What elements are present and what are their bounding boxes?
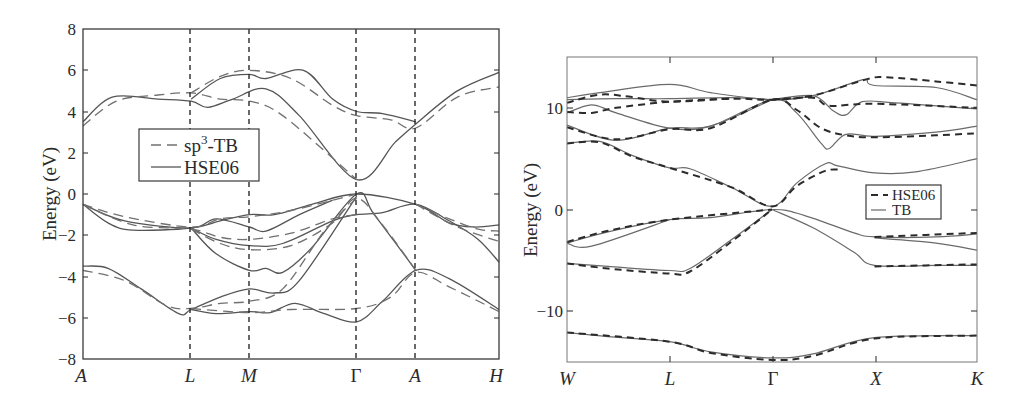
solid-band-line xyxy=(567,210,772,272)
ytick-label: −8 xyxy=(58,350,76,369)
legend-label-tb: TB xyxy=(892,202,911,218)
right-legend: HSE06 TB xyxy=(866,185,941,219)
ytick-label: −10 xyxy=(536,302,563,321)
k-label: A xyxy=(73,365,87,386)
band-structure-figure: 8 6 4 2 0 −2 −4 −6 −8 Energy (eV) A L M … xyxy=(0,0,1019,409)
ytick-label: 0 xyxy=(68,185,77,204)
right-chart: 10 0 −10 Energy (eV) W L Γ X K HSE06 TB xyxy=(520,57,985,389)
solid-band-line xyxy=(191,70,416,122)
legend-label-hse06: HSE06 xyxy=(184,157,239,178)
ytick-label: −6 xyxy=(58,309,76,328)
legend-label-tb: sp3-TB xyxy=(184,132,238,156)
dashed-band-line xyxy=(875,264,978,266)
dashed-band-line xyxy=(567,142,842,207)
k-label: L xyxy=(184,365,196,386)
solid-band-line xyxy=(567,98,772,100)
solid-band-line xyxy=(191,269,499,322)
dashed-band-line xyxy=(191,272,499,312)
left-band-lines xyxy=(83,70,499,323)
k-label: H xyxy=(488,365,504,386)
left-legend: sp3-TB HSE06 xyxy=(139,129,259,181)
ytick-label: 6 xyxy=(68,61,77,80)
left-y-tick-labels: 8 6 4 2 0 −2 −4 −6 −8 xyxy=(58,20,77,369)
ytick-label: 2 xyxy=(68,144,77,163)
ytick-label: 4 xyxy=(68,103,77,122)
dashed-band-line xyxy=(567,210,772,243)
k-label: W xyxy=(559,368,577,389)
k-label: Γ xyxy=(351,365,362,386)
k-label: M xyxy=(240,365,258,386)
left-chart: 8 6 4 2 0 −2 −4 −6 −8 Energy (eV) A L M … xyxy=(39,20,504,386)
solid-band-line xyxy=(567,100,772,130)
k-label: Γ xyxy=(768,368,779,389)
k-label: A xyxy=(407,365,421,386)
k-label: L xyxy=(664,368,676,389)
left-vlines xyxy=(190,29,415,359)
right-y-axis-label: Energy (eV) xyxy=(520,163,542,257)
k-label: X xyxy=(869,368,883,389)
dashed-band-line xyxy=(83,198,357,309)
dashed-band-line xyxy=(567,333,977,361)
ytick-label: −4 xyxy=(58,268,77,287)
left-k-labels: A L M Γ A H xyxy=(73,365,504,386)
k-label: K xyxy=(970,368,985,389)
legend-label-hse06: HSE06 xyxy=(892,187,936,203)
ytick-label: 10 xyxy=(546,99,563,118)
solid-band-line xyxy=(567,220,670,248)
dashed-band-line xyxy=(567,99,731,113)
ytick-label: −2 xyxy=(58,226,76,245)
solid-band-line xyxy=(83,196,357,315)
solid-band-line xyxy=(875,238,978,250)
ytick-label: 8 xyxy=(68,20,77,39)
ytick-label: 0 xyxy=(555,201,564,220)
dashed-band-line xyxy=(83,194,357,227)
left-y-axis-label: Energy (eV) xyxy=(39,147,61,241)
right-k-labels: W L Γ X K xyxy=(559,368,985,389)
